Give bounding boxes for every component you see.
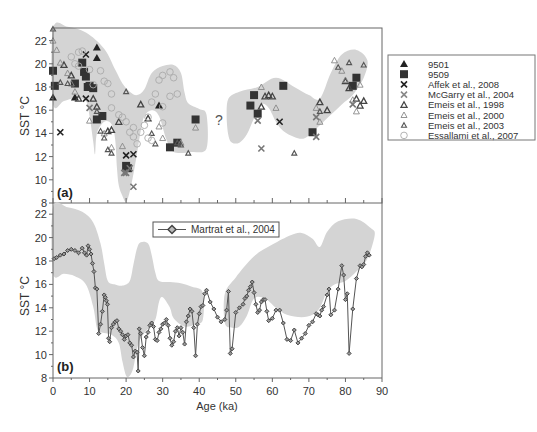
y-tick-label: 12 — [35, 325, 47, 337]
diamond-marker-icon — [136, 369, 140, 373]
diamond-marker-icon — [181, 330, 185, 334]
diamond-marker-icon — [265, 309, 269, 313]
square-marker-icon — [192, 115, 200, 123]
diamond-marker-icon — [212, 307, 216, 311]
x-tick-label: 50 — [230, 385, 242, 397]
open-triangle-icon — [149, 131, 154, 136]
uncertainty-envelope — [51, 22, 208, 201]
y-tick-label: 18 — [35, 255, 47, 267]
y-tick-label: 18 — [35, 81, 47, 93]
x-tick-label: 10 — [83, 385, 95, 397]
y-tick-label: 10 — [35, 349, 47, 361]
diamond-marker-icon — [142, 354, 146, 358]
diamond-marker-icon — [192, 326, 196, 330]
diamond-marker-icon — [343, 298, 347, 302]
legend-b-label: Martrat et al., 2004 — [191, 224, 275, 235]
x-axis-label: Age (ka) — [196, 400, 238, 412]
diamond-marker-icon — [345, 292, 349, 296]
diamond-marker-icon — [141, 346, 145, 350]
x-tick-label: 80 — [339, 385, 351, 397]
panel-b-y-axis: 810121416182022 — [35, 208, 53, 384]
y-tick-label: 20 — [35, 232, 47, 244]
panel-b-y-axis-label: SST °C — [18, 276, 32, 316]
square-marker-icon — [166, 143, 174, 151]
diamond-marker-icon — [354, 277, 358, 281]
square-marker-icon — [246, 102, 254, 110]
open-triangle-icon — [361, 98, 367, 104]
sst-figure: 810121416182022 (a) ? SST °C 95019509Aff… — [0, 0, 537, 432]
diamond-marker-icon — [228, 351, 232, 355]
y-tick-label: 14 — [35, 127, 47, 139]
cross-marker-icon — [258, 145, 264, 151]
y-tick-label: 20 — [35, 58, 47, 70]
cross-marker-icon — [130, 184, 136, 190]
diamond-marker-icon — [254, 302, 258, 306]
diamond-marker-icon — [168, 336, 172, 340]
diamond-marker-icon — [347, 351, 351, 355]
panel-b: 810121416182022 0102030405060708090 (b) … — [18, 202, 388, 412]
diamond-marker-icon — [166, 323, 170, 327]
panel-a-label: (a) — [57, 185, 73, 200]
square-marker-icon — [82, 73, 90, 81]
square-marker-icon — [250, 91, 258, 99]
x-tick-label: 60 — [266, 385, 278, 397]
open-triangle-icon — [98, 129, 103, 134]
cross-marker-icon — [57, 129, 63, 135]
diamond-marker-icon — [281, 321, 285, 325]
y-tick-label: 22 — [35, 35, 47, 47]
panel-a-y-axis: 810121416182022 — [35, 29, 53, 209]
panel-b-label: (b) — [57, 359, 74, 374]
diamond-marker-icon — [194, 354, 198, 358]
x-tick-label: 20 — [120, 385, 132, 397]
y-tick-label: 8 — [41, 372, 47, 384]
x-tick-label: 90 — [376, 385, 388, 397]
legend-item-label: Essallami et al., 2007 — [428, 130, 518, 141]
diamond-marker-icon — [146, 330, 150, 334]
diamond-marker-icon — [183, 342, 187, 346]
open-triangle-icon — [153, 141, 158, 146]
diamond-marker-icon — [179, 326, 183, 330]
open-triangle-icon — [331, 57, 337, 63]
cross-marker-icon — [255, 118, 261, 124]
legend-panel-a: 95019509Affek et al., 2008McGarry et al.… — [388, 55, 535, 141]
diamond-marker-icon — [144, 335, 148, 339]
y-tick-label: 16 — [35, 104, 47, 116]
x-tick-label: 30 — [157, 385, 169, 397]
square-marker-icon — [51, 82, 59, 90]
diamond-marker-icon — [208, 300, 212, 304]
y-tick-label: 22 — [35, 208, 47, 220]
open-triangle-icon — [292, 151, 297, 156]
legend-panel-b: Martrat et al., 2004 — [153, 222, 279, 237]
question-mark-annotation: ? — [215, 112, 223, 128]
y-tick-label: 10 — [35, 174, 47, 186]
diamond-marker-icon — [292, 328, 296, 332]
y-tick-label: 14 — [35, 302, 47, 314]
square-marker-icon — [352, 74, 360, 82]
x-tick-label: 0 — [50, 385, 56, 397]
panel-b-x-axis-ticks: 0102030405060708090 — [50, 378, 388, 397]
square-marker-icon — [279, 82, 287, 90]
square-marker-icon — [254, 110, 262, 118]
x-tick-label: 40 — [193, 385, 205, 397]
circle-marker-icon — [141, 122, 148, 129]
diamond-marker-icon — [336, 287, 340, 291]
diamond-marker-icon — [230, 347, 234, 351]
open-triangle-icon — [160, 135, 166, 141]
panel-a: 810121416182022 (a) ? SST °C — [18, 22, 382, 209]
y-tick-label: 8 — [41, 197, 47, 209]
y-tick-label: 16 — [35, 278, 47, 290]
open-triangle-icon — [353, 108, 359, 114]
legend-marker-icon — [400, 70, 408, 78]
diamond-marker-icon — [177, 334, 181, 338]
diamond-marker-icon — [351, 307, 355, 311]
y-tick-label: 12 — [35, 151, 47, 163]
panel-a-x-ticks — [53, 198, 382, 203]
x-tick-label: 70 — [303, 385, 315, 397]
panel-a-y-axis-label: SST °C — [18, 96, 32, 136]
